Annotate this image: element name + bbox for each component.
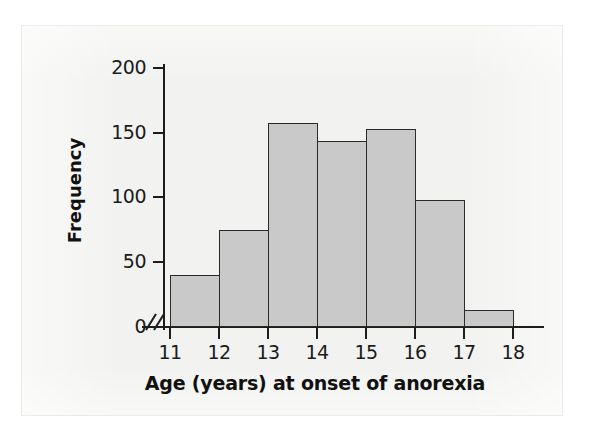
- x-tick-label-17: 17: [444, 341, 484, 363]
- x-tick-15: [365, 328, 367, 339]
- y-tick-50: [153, 261, 163, 263]
- x-axis-title: Age (years) at onset of anorexia: [100, 372, 530, 394]
- y-tick-100: [153, 196, 163, 198]
- histogram-plot-area: 0 50 100 150 200 11 12 13 14 15 16 17 18…: [0, 0, 597, 429]
- x-tick-label-14: 14: [297, 341, 337, 363]
- x-tick-18: [512, 328, 514, 339]
- x-tick-label-13: 13: [248, 341, 288, 363]
- x-tick-11: [169, 328, 171, 339]
- histogram-bar-16-17: [415, 200, 465, 327]
- x-tick-14: [316, 328, 318, 339]
- y-axis-line: [163, 64, 165, 330]
- x-tick-12: [218, 328, 220, 339]
- x-tick-16: [414, 328, 416, 339]
- y-tick-0: [153, 326, 163, 328]
- y-tick-label-0: 0: [102, 315, 146, 337]
- x-tick-label-16: 16: [395, 341, 435, 363]
- x-tick-17: [463, 328, 465, 339]
- histogram-bar-13-14: [268, 123, 318, 327]
- y-axis-title: Frequency: [64, 111, 85, 271]
- x-tick-13: [267, 328, 269, 339]
- x-tick-label-15: 15: [346, 341, 386, 363]
- x-tick-label-11: 11: [150, 341, 190, 363]
- histogram-bar-14-15: [317, 141, 367, 327]
- x-tick-label-18: 18: [493, 341, 533, 363]
- chart-page: 0 50 100 150 200 11 12 13 14 15 16 17 18…: [0, 0, 597, 429]
- y-tick-label-50: 50: [102, 250, 146, 272]
- histogram-bar-15-16: [366, 129, 416, 327]
- y-tick-label-100: 100: [102, 185, 146, 207]
- histogram-bar-11-12: [170, 275, 220, 327]
- y-tick-label-150: 150: [102, 121, 146, 143]
- y-tick-200: [153, 67, 163, 69]
- histogram-bar-12-13: [219, 230, 269, 327]
- x-tick-label-12: 12: [199, 341, 239, 363]
- y-tick-150: [153, 132, 163, 134]
- y-tick-label-200: 200: [102, 56, 146, 78]
- histogram-bar-17-18: [464, 310, 514, 327]
